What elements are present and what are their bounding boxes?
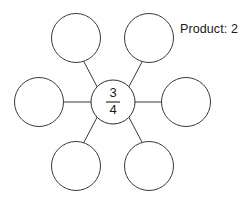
spoke-top-right [129, 60, 144, 88]
product-annotation: Product: 2 [180, 22, 238, 36]
spoke-top-left [83, 60, 98, 88]
center-denominator: 4 [109, 102, 116, 117]
outer-node-top-right[interactable] [125, 14, 174, 63]
spoke-bottom-left [83, 117, 98, 145]
outer-node-bottom-right[interactable] [125, 142, 174, 191]
fraction-web-diagram: 3 4 Product: 2 [0, 0, 247, 198]
spoke-bottom-right [129, 117, 144, 145]
outer-node-top-left[interactable] [52, 14, 101, 63]
outer-node-bottom-left[interactable] [52, 142, 101, 191]
center-numerator: 3 [109, 85, 116, 100]
outer-node-left[interactable] [15, 78, 64, 127]
outer-node-right[interactable] [162, 78, 211, 127]
